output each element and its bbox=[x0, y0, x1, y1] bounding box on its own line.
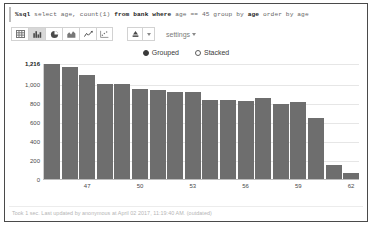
bar[interactable] bbox=[62, 67, 78, 179]
y-axis-tick-label: 400 bbox=[30, 139, 40, 145]
x-axis-tick-slot bbox=[308, 182, 324, 194]
radio-grouped-indicator bbox=[143, 50, 149, 56]
bar[interactable] bbox=[150, 90, 166, 179]
x-axis-labels: 475053565962 bbox=[43, 182, 359, 194]
x-axis-tick-slot bbox=[114, 182, 130, 194]
download-button-group bbox=[127, 27, 155, 41]
scatter-chart-icon[interactable] bbox=[96, 27, 113, 41]
y-axis-tick-label: 0 bbox=[37, 177, 40, 183]
download-chevron-down-icon[interactable] bbox=[143, 27, 155, 41]
line-chart-icon[interactable] bbox=[79, 27, 96, 41]
download-icon[interactable] bbox=[127, 27, 143, 41]
x-axis-tick-slot bbox=[273, 182, 289, 194]
x-axis-tick-slot bbox=[62, 182, 78, 194]
bar[interactable] bbox=[308, 118, 324, 179]
x-axis-tick-slot: 62 bbox=[343, 182, 359, 194]
settings-label: settings bbox=[166, 31, 190, 38]
plot-area bbox=[43, 64, 359, 180]
x-axis-tick-label: 53 bbox=[189, 183, 196, 189]
x-axis-line bbox=[43, 179, 359, 180]
x-axis-tick-slot bbox=[255, 182, 271, 194]
radio-stacked-indicator bbox=[195, 50, 201, 56]
bar[interactable] bbox=[132, 89, 148, 179]
bar[interactable] bbox=[326, 165, 342, 179]
bar-mode-radio-group: Grouped Stacked bbox=[5, 46, 367, 59]
bar[interactable] bbox=[290, 102, 306, 179]
bar-chart-icon[interactable] bbox=[28, 27, 45, 41]
x-axis-tick-slot bbox=[202, 182, 218, 194]
x-axis-tick-label: 50 bbox=[137, 183, 144, 189]
bar[interactable] bbox=[97, 84, 113, 179]
bar[interactable] bbox=[167, 92, 183, 179]
notebook-paragraph: %sql select age, count(1) from bank wher… bbox=[4, 3, 368, 222]
paragraph-status-bar: Took 1 sec. Last updated by anonymous at… bbox=[9, 206, 363, 218]
chevron-down-glyph bbox=[147, 33, 151, 36]
area-chart-icon[interactable] bbox=[62, 27, 79, 41]
bar[interactable] bbox=[185, 92, 201, 179]
radio-grouped-label: Grouped bbox=[152, 49, 179, 56]
query-text: %sql select age, count(1) from bank wher… bbox=[15, 10, 309, 19]
bar[interactable] bbox=[220, 100, 236, 179]
bar[interactable] bbox=[114, 84, 130, 179]
x-axis-tick-label: 62 bbox=[348, 183, 355, 189]
status-text: Took 1 sec. Last updated by anonymous at… bbox=[12, 210, 212, 216]
bar[interactable] bbox=[202, 100, 218, 179]
radio-option-stacked[interactable]: Stacked bbox=[195, 49, 229, 56]
y-axis-tick-label: 1,216 bbox=[25, 61, 40, 67]
x-axis-tick-slot: 59 bbox=[290, 182, 306, 194]
bar[interactable] bbox=[273, 104, 289, 179]
x-axis-tick-slot bbox=[150, 182, 166, 194]
x-axis-tick-slot bbox=[220, 182, 236, 194]
x-axis-tick-slot bbox=[167, 182, 183, 194]
bar[interactable] bbox=[343, 173, 359, 179]
bar[interactable] bbox=[44, 64, 60, 179]
x-axis-tick-label: 56 bbox=[242, 183, 249, 189]
y-axis-tick-label: 1,000 bbox=[25, 82, 40, 88]
x-axis-tick-slot bbox=[326, 182, 342, 194]
visualization-toolbar: settings bbox=[11, 26, 361, 42]
x-axis-tick-label: 59 bbox=[295, 183, 302, 189]
x-axis-tick-slot: 47 bbox=[79, 182, 95, 194]
bar-series bbox=[44, 64, 359, 179]
x-axis-tick-slot bbox=[44, 182, 60, 194]
x-axis-tick-slot: 53 bbox=[185, 182, 201, 194]
x-axis-tick-slot: 50 bbox=[132, 182, 148, 194]
radio-stacked-label: Stacked bbox=[204, 49, 229, 56]
pie-chart-icon[interactable] bbox=[45, 27, 62, 41]
y-axis-tick-label: 200 bbox=[30, 158, 40, 164]
settings-dropdown[interactable]: settings bbox=[166, 31, 196, 38]
x-axis-tick-slot bbox=[97, 182, 113, 194]
bar-chart: 02004006008001,0001,216 475053565962 bbox=[11, 60, 363, 202]
table-chart-icon[interactable] bbox=[11, 27, 28, 41]
chart-type-button-group bbox=[11, 27, 113, 41]
query-magic: %sql bbox=[15, 11, 30, 18]
query-editor[interactable]: %sql select age, count(1) from bank wher… bbox=[9, 7, 363, 22]
y-axis-labels: 02004006008001,0001,216 bbox=[11, 64, 40, 180]
x-axis-tick-slot: 56 bbox=[238, 182, 254, 194]
x-axis-tick-label: 47 bbox=[84, 183, 91, 189]
bar[interactable] bbox=[238, 101, 254, 179]
y-axis-tick-label: 600 bbox=[30, 120, 40, 126]
y-axis-tick-label: 800 bbox=[30, 101, 40, 107]
settings-chevron-down-icon bbox=[192, 33, 196, 36]
radio-option-grouped[interactable]: Grouped bbox=[143, 49, 179, 56]
bar[interactable] bbox=[255, 98, 271, 179]
bar[interactable] bbox=[79, 75, 95, 179]
